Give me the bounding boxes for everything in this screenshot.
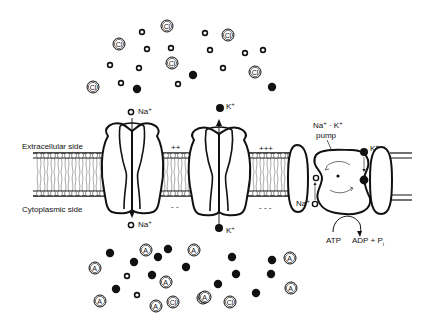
membrane-diagram: ClClClClClClA′A′A′A′A′A′A′A′A′A′ClCl Ext… bbox=[0, 0, 427, 327]
svg-text:A: A bbox=[287, 255, 292, 262]
svg-text:A: A bbox=[143, 247, 148, 254]
k-ion bbox=[228, 253, 236, 261]
charge-plus-3: +++ bbox=[259, 145, 273, 153]
cytoplasmic-side-label: Cytoplasmic side bbox=[22, 206, 82, 214]
pump-right-subunit bbox=[370, 147, 392, 214]
svg-text:Cl: Cl bbox=[90, 84, 97, 91]
k-ion bbox=[112, 285, 120, 293]
k-ion bbox=[182, 263, 190, 271]
pump-label-line1: Na+ · K+ bbox=[313, 122, 343, 130]
pump-na: Na bbox=[313, 121, 323, 130]
k-ion bbox=[214, 280, 222, 288]
na-ion-outside bbox=[128, 109, 133, 114]
anion-ion: A′ bbox=[284, 252, 296, 264]
adp-sub: i bbox=[383, 241, 384, 247]
anion-ion: A′ bbox=[285, 282, 297, 294]
k-ion bbox=[164, 245, 172, 253]
svg-text:′: ′ bbox=[208, 292, 209, 298]
plus-sup: + bbox=[306, 198, 310, 204]
svg-text:′: ′ bbox=[103, 296, 104, 302]
k-ion bbox=[106, 249, 114, 257]
k-label-bottom: K+ bbox=[226, 227, 235, 235]
anion-ion: A′ bbox=[150, 300, 162, 312]
plus-sup: + bbox=[323, 120, 327, 126]
svg-text:′: ′ bbox=[98, 263, 99, 269]
k-ion bbox=[232, 270, 240, 278]
na-ion bbox=[119, 81, 124, 86]
svg-text:A: A bbox=[92, 265, 97, 272]
svg-text:A: A bbox=[97, 298, 102, 305]
adp-text: ADP + P bbox=[352, 236, 383, 245]
na-channel bbox=[102, 123, 163, 213]
na-ion bbox=[137, 66, 142, 71]
k-ion bbox=[133, 85, 141, 93]
svg-text:Cl: Cl bbox=[252, 69, 259, 76]
pump-k-label: K+ bbox=[370, 145, 379, 153]
na-ion bbox=[221, 66, 226, 71]
bilayer-segment-4 bbox=[390, 153, 412, 200]
na-ion bbox=[176, 82, 181, 87]
svg-text:A: A bbox=[288, 285, 293, 292]
k-ion bbox=[267, 270, 275, 278]
svg-text:A: A bbox=[153, 303, 158, 310]
cl-ion: Cl bbox=[224, 296, 236, 308]
svg-text:Cl: Cl bbox=[225, 32, 232, 39]
svg-text:Cl: Cl bbox=[169, 60, 176, 67]
na-ion bbox=[261, 48, 266, 53]
k-ion bbox=[268, 256, 276, 264]
svg-text:Cl: Cl bbox=[164, 23, 171, 30]
svg-text:′: ′ bbox=[149, 245, 150, 251]
anion-ion: A′ bbox=[140, 244, 152, 256]
pump-na-text: Na bbox=[296, 199, 306, 208]
k-ion bbox=[189, 71, 197, 79]
cl-ion: Cl bbox=[166, 57, 178, 69]
anion-ion: A′ bbox=[188, 244, 200, 256]
pump-na-ion-bound bbox=[313, 175, 318, 180]
svg-text:Cl: Cl bbox=[116, 41, 123, 48]
svg-text:′: ′ bbox=[293, 253, 294, 259]
cl-ion: Cl bbox=[222, 29, 234, 41]
na-label-bottom-text: Na bbox=[138, 220, 148, 229]
svg-text:′: ′ bbox=[197, 245, 198, 251]
extracellular-side-label: Extracellular side bbox=[22, 143, 83, 151]
atp-label: ATP bbox=[326, 237, 341, 245]
k-channel bbox=[189, 127, 250, 215]
lipid-molecules bbox=[37, 153, 293, 196]
plus-sup: + bbox=[231, 225, 235, 231]
na-ion bbox=[145, 47, 150, 52]
k-ion bbox=[268, 83, 276, 91]
svg-text:′: ′ bbox=[294, 283, 295, 289]
anion-ion: A′ bbox=[94, 295, 106, 307]
cl-ion: Cl bbox=[249, 66, 261, 78]
pump-na-label: Na+ bbox=[296, 200, 310, 208]
plus-sup: + bbox=[375, 143, 379, 149]
charge-minus-3: - - - bbox=[259, 204, 271, 212]
anion-ion: A′ bbox=[160, 276, 172, 288]
k-ion bbox=[154, 253, 162, 261]
svg-text:A: A bbox=[191, 247, 196, 254]
anion-ion: A′ bbox=[199, 291, 211, 303]
pump-label-line2: pump bbox=[316, 132, 336, 140]
na-label-top-text: Na bbox=[138, 107, 148, 116]
adp-label: ADP + Pi bbox=[352, 237, 384, 247]
na-ion bbox=[208, 48, 213, 53]
diagram-canvas: ClClClClClClA′A′A′A′A′A′A′A′A′A′ClCl bbox=[0, 0, 427, 327]
na-ion bbox=[125, 274, 130, 279]
plus-sup: + bbox=[339, 120, 343, 126]
k-ion bbox=[148, 271, 156, 279]
na-ion bbox=[135, 293, 140, 298]
pump-k-ion-bound bbox=[360, 176, 369, 185]
na-label-top: Na+ bbox=[138, 108, 152, 116]
cl-ion: Cl bbox=[167, 296, 179, 308]
svg-text:A: A bbox=[202, 294, 207, 301]
plus-sup: + bbox=[231, 101, 235, 107]
plus-sup: + bbox=[148, 106, 152, 112]
charge-minus-2: - - bbox=[171, 203, 179, 211]
anion-ion: A′ bbox=[89, 262, 101, 274]
atp-hydrolysis-arrow bbox=[333, 216, 362, 237]
bilayer-segment-1 bbox=[33, 153, 105, 196]
charge-plus-2: ++ bbox=[171, 144, 180, 152]
svg-text:A: A bbox=[163, 279, 168, 286]
svg-text:Cl: Cl bbox=[170, 299, 177, 306]
na-ion bbox=[108, 63, 113, 68]
